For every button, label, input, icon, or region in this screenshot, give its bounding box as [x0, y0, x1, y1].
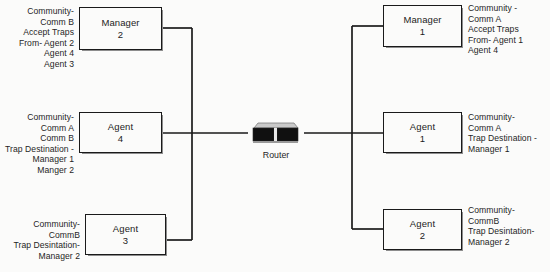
node-agent-2[interactable]: Agent 2	[383, 209, 462, 250]
node-manager-2[interactable]: Manager 2	[79, 7, 162, 50]
node-agent-1[interactable]: Agent 1	[383, 112, 462, 153]
node-agent-4-role: Agent	[108, 121, 133, 133]
node-manager-2-number: 2	[118, 29, 123, 41]
node-manager-1[interactable]: Manager 1	[383, 5, 462, 47]
node-agent-2-role: Agent	[410, 218, 435, 230]
node-agent-3-role: Agent	[113, 223, 138, 235]
node-agent-3[interactable]: Agent 3	[85, 214, 166, 255]
annotation-agent-1: Community- Comm A Trap Destination - Man…	[468, 112, 550, 154]
node-agent-1-role: Agent	[410, 121, 435, 133]
annotation-manager-2: Community- Comm B Accept Traps From- Age…	[0, 6, 74, 70]
annotation-manager-1: Community - Comm A Accept Traps From- Ag…	[468, 3, 550, 56]
node-agent-1-number: 1	[420, 133, 425, 145]
node-manager-1-number: 1	[420, 26, 425, 38]
annotation-agent-4: Community- Comm A Comm B Trap Destinatio…	[0, 112, 74, 176]
node-manager-2-role: Manager	[101, 17, 139, 29]
node-agent-4[interactable]: Agent 4	[79, 112, 162, 153]
node-manager-1-role: Manager	[403, 14, 441, 26]
network-diagram-canvas: Router Manager 2 Community- Comm B Accep…	[0, 0, 550, 272]
router-label: Router	[248, 150, 304, 160]
node-agent-4-number: 4	[118, 133, 123, 145]
node-agent-2-number: 2	[420, 230, 425, 242]
annotation-agent-3: Community- CommB Trap Desintation- Manag…	[0, 219, 80, 261]
router-device-icon	[248, 122, 304, 148]
node-agent-3-number: 3	[123, 235, 128, 247]
annotation-agent-2: Community- CommB Trap Desintation- Manag…	[468, 205, 550, 247]
